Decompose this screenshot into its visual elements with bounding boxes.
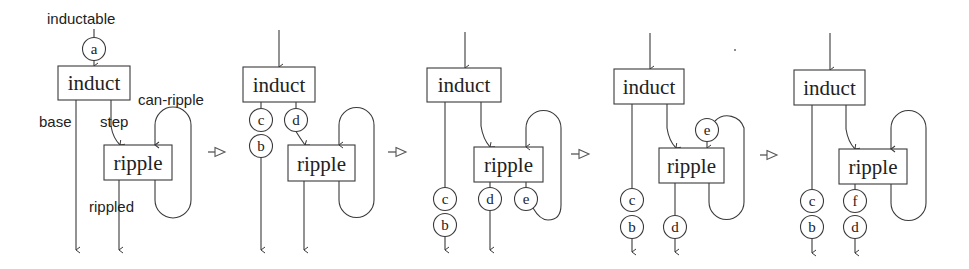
svg-text:c: c <box>629 192 636 208</box>
stray-dot <box>734 49 736 51</box>
svg-text:b: b <box>808 219 816 235</box>
svg-text:b: b <box>257 138 265 154</box>
token-d: d <box>844 216 867 239</box>
transition-arrow-icon <box>388 148 406 157</box>
node-ripple: ripple <box>659 148 724 183</box>
node-induct: induct <box>794 70 865 105</box>
svg-text:e: e <box>523 191 530 207</box>
stage-4: induct c b e ripple d <box>614 33 744 252</box>
label-base: base <box>39 113 72 130</box>
stage-3: induct c b ripple d e <box>427 32 561 250</box>
svg-text:c: c <box>442 191 449 207</box>
svg-text:c: c <box>258 112 265 128</box>
node-induct: induct <box>243 67 315 102</box>
stage-5: induct c b ripple f d <box>794 33 926 253</box>
edge-step <box>481 102 490 147</box>
svg-text:d: d <box>486 191 494 207</box>
stage-1: inductable a induct base step can-ripple… <box>39 10 204 250</box>
svg-text:induct: induct <box>803 76 856 100</box>
diagram-canvas: inductable a induct base step can-ripple… <box>0 0 969 269</box>
edge-step <box>846 105 855 149</box>
svg-text:ripple: ripple <box>297 152 346 176</box>
svg-text:ripple: ripple <box>484 153 533 177</box>
token-f: f <box>844 190 867 213</box>
label-rippled: rippled <box>89 198 134 215</box>
token-d: d <box>285 109 308 132</box>
token-c: c <box>434 188 457 211</box>
stage-2: induct c b d ripple <box>243 30 374 250</box>
label-can-ripple: can-ripple <box>138 91 204 108</box>
node-induct: induct <box>58 66 130 100</box>
token-d: d <box>664 216 687 239</box>
svg-text:f: f <box>853 193 858 209</box>
token-c: c <box>801 190 824 213</box>
svg-text:d: d <box>671 219 679 235</box>
token-e: e <box>515 188 538 211</box>
node-ripple: ripple <box>474 147 543 182</box>
node-ripple: ripple <box>288 145 355 181</box>
token-b: b <box>434 214 457 237</box>
transition-arrow-icon <box>760 151 777 160</box>
token-c: c <box>250 109 273 132</box>
token-c: c <box>621 189 644 212</box>
transition-arrow-icon <box>571 150 589 159</box>
node-induct: induct <box>427 68 501 102</box>
svg-text:b: b <box>441 217 449 233</box>
svg-text:e: e <box>704 122 711 138</box>
svg-text:d: d <box>851 219 859 235</box>
edge-step <box>667 104 676 148</box>
svg-text:ripple: ripple <box>667 154 716 178</box>
svg-text:d: d <box>292 112 300 128</box>
label-step: step <box>100 113 128 130</box>
node-induct: induct <box>614 69 684 104</box>
transition-arrow-icon <box>208 148 225 157</box>
svg-text:induct: induct <box>253 73 306 97</box>
token-b: b <box>250 135 273 158</box>
token-a: a <box>83 38 106 61</box>
node-ripple: ripple <box>839 149 907 184</box>
svg-text:ripple: ripple <box>114 151 163 175</box>
svg-text:b: b <box>628 219 636 235</box>
svg-text:induct: induct <box>623 75 676 99</box>
svg-text:induct: induct <box>438 73 491 97</box>
token-e: e <box>696 119 719 142</box>
svg-text:induct: induct <box>68 71 121 95</box>
label-inductable: inductable <box>47 10 115 27</box>
token-b: b <box>801 216 824 239</box>
svg-text:a: a <box>91 41 98 57</box>
token-d: d <box>479 188 502 211</box>
edge-step <box>296 132 305 146</box>
node-ripple: ripple <box>104 145 172 180</box>
token-b: b <box>621 216 644 239</box>
svg-text:ripple: ripple <box>849 155 898 179</box>
svg-text:c: c <box>809 193 816 209</box>
